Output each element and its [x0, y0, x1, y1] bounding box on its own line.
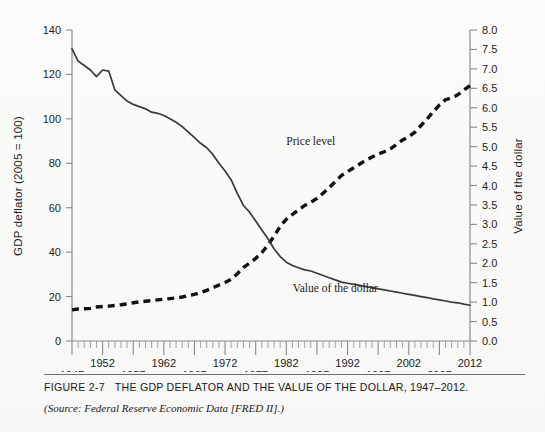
- x-axis-ticks: [72, 341, 470, 355]
- x-tick-label: 1997: [366, 369, 390, 372]
- right-tick-label: 4.5: [482, 160, 497, 172]
- right-tick-label: 4.0: [482, 180, 497, 192]
- chart-plot-area: 020406080100120140 0.00.51.01.52.02.53.0…: [0, 0, 545, 372]
- series-price-level: [72, 86, 470, 310]
- x-tick-label: 1952: [90, 357, 114, 369]
- right-tick-label: 2.5: [482, 238, 497, 250]
- right-tick-label: 1.5: [482, 277, 497, 289]
- left-tick-label: 80: [49, 157, 61, 169]
- figure-caption-line: FIGURE 2-7THE GDP DEFLATOR AND THE VALUE…: [0, 375, 545, 397]
- figure-caption-block: FIGURE 2-7THE GDP DEFLATOR AND THE VALUE…: [0, 374, 545, 414]
- x-tick-label: 2012: [458, 357, 482, 369]
- x-tick-label: 2002: [397, 357, 421, 369]
- right-tick-label: 7.5: [482, 43, 497, 55]
- left-tick-label: 40: [49, 246, 61, 258]
- x-tick-label: 1992: [335, 357, 359, 369]
- x-tick-label: 1962: [152, 357, 176, 369]
- right-tick-label: 5.0: [482, 141, 497, 153]
- right-tick-label: 6.0: [482, 102, 497, 114]
- y-axis-title: GDP deflator (2005 = 100): [12, 116, 24, 256]
- figure-source-note: (Source: Federal Reserve Economic Data […: [0, 397, 545, 414]
- left-tick-label: 0: [55, 335, 61, 347]
- left-tick-label: 140: [43, 24, 61, 36]
- x-tick-label: 1947: [60, 369, 84, 372]
- right-tick-label: 3.5: [482, 199, 497, 211]
- x-tick-label: 1987: [305, 369, 329, 372]
- y2-axis-title: Value of the dollar: [512, 138, 524, 234]
- chart-svg: 020406080100120140 0.00.51.01.52.02.53.0…: [0, 0, 545, 372]
- figure-number: FIGURE 2-7: [44, 381, 105, 393]
- right-tick-label: 2.0: [482, 257, 497, 269]
- x-tick-label: 1957: [121, 369, 145, 372]
- chart-annotation-label: Value of the dollar: [293, 282, 378, 294]
- left-axis-ticks: 020406080100120140: [43, 24, 72, 347]
- left-tick-label: 60: [49, 202, 61, 214]
- x-tick-label: 1977: [243, 369, 267, 372]
- x-tick-label: 2007: [427, 369, 451, 372]
- right-tick-label: 1.0: [482, 296, 497, 308]
- left-tick-label: 20: [49, 291, 61, 303]
- right-tick-label: 8.0: [482, 24, 497, 36]
- chart-annotations: Price levelValue of the dollar: [286, 135, 378, 294]
- series-value-of-dollar: [72, 49, 470, 305]
- x-axis-tick-labels: 1952196219721982199220022012194719571967…: [60, 357, 482, 372]
- right-tick-label: 3.0: [482, 218, 497, 230]
- left-tick-label: 100: [43, 113, 61, 125]
- right-tick-label: 0.0: [482, 335, 497, 347]
- figure-container: 020406080100120140 0.00.51.01.52.02.53.0…: [0, 0, 545, 432]
- right-tick-label: 7.0: [482, 63, 497, 75]
- right-tick-label: 6.5: [482, 82, 497, 94]
- right-axis-ticks: 0.00.51.01.52.02.53.03.54.04.55.05.56.06…: [470, 24, 497, 347]
- figure-title: THE GDP DEFLATOR AND THE VALUE OF THE DO…: [115, 381, 469, 393]
- right-tick-label: 5.5: [482, 121, 497, 133]
- x-tick-label: 1982: [274, 357, 298, 369]
- x-tick-label: 1967: [182, 369, 206, 372]
- right-tick-label: 0.5: [482, 316, 497, 328]
- x-tick-label: 1972: [213, 357, 237, 369]
- chart-annotation-label: Price level: [286, 135, 335, 147]
- left-tick-label: 120: [43, 68, 61, 80]
